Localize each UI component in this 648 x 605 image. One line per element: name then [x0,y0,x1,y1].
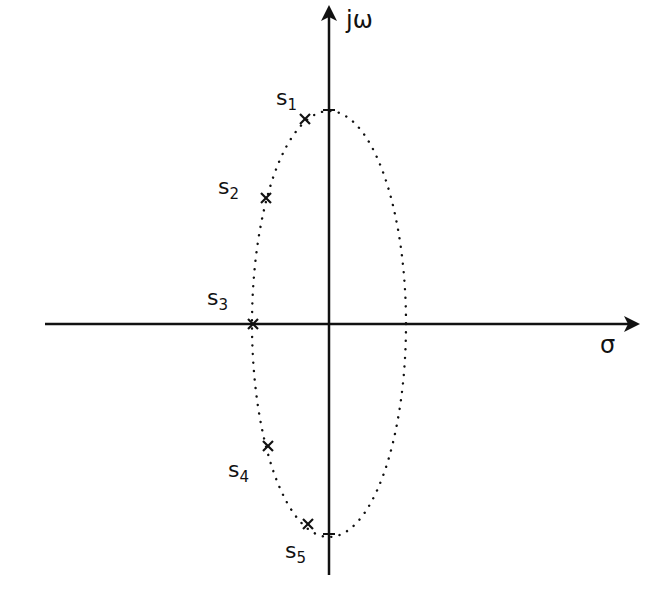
jw-axis-label: jω [346,8,373,32]
pole-s1-x-icon [300,114,310,124]
pole-label-s5: s5 [285,540,306,566]
pole-s5-x-icon [303,519,313,529]
pole-label-s2: s2 [218,176,239,202]
pole-label-s1: s1 [276,87,297,113]
s-plane-diagram [0,0,648,605]
pole-s4-x-icon [263,441,273,451]
pole-label-s3: s3 [207,287,228,313]
sigma-axis-label: σ [600,333,615,357]
pole-label-s4: s4 [228,459,249,485]
poles-group [248,114,313,529]
